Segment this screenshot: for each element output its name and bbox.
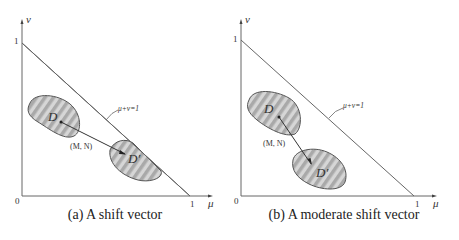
region-d (248, 92, 301, 135)
vector-label: (M, N) (70, 142, 92, 151)
y-axis-label: ν (245, 13, 250, 25)
caption-b: (b) A moderate shift vector (229, 207, 459, 223)
origin-label: 0 (15, 196, 20, 206)
y-tick-1: 1 (14, 36, 19, 46)
constraint-line-label: μ+ν=1 (343, 101, 364, 110)
region-d-prime-label: D′ (316, 165, 328, 181)
y-tick-1: 1 (233, 34, 238, 44)
diagram-a (0, 0, 230, 240)
origin-label: 0 (234, 196, 239, 206)
constraint-line-label: μ+ν=1 (118, 104, 139, 113)
caption-a: (a) A shift vector (0, 207, 230, 223)
panel-b: ν 1 0 1 μ μ+ν=1 D D′ (M, N) (b) A modera… (229, 0, 459, 240)
vector-label: (M, N) (263, 139, 285, 148)
region-d-label: D (264, 101, 273, 117)
y-axis-label: ν (26, 13, 31, 25)
region-d-prime-label: D′ (128, 151, 140, 167)
panel-a: ν 1 0 1 μ μ+ν=1 D D′ (M, N) (a) A shift … (0, 0, 230, 240)
diagram-b (229, 0, 459, 240)
region-d-label: D (48, 109, 57, 125)
